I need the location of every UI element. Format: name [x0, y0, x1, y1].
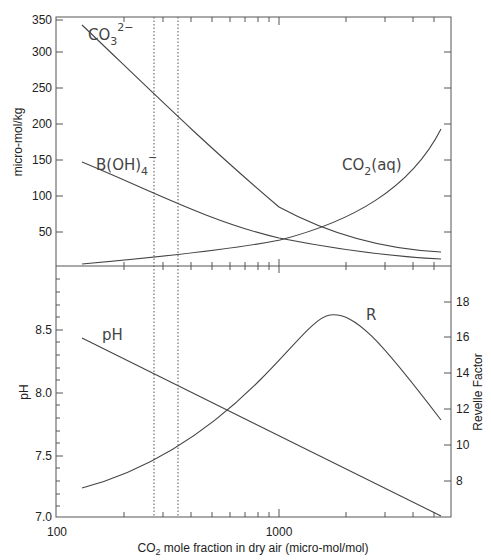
svg-text:7.0: 7.0 [35, 510, 52, 524]
revelle-label: R [366, 306, 376, 324]
plot-frame [56, 17, 451, 517]
svg-text:14: 14 [456, 366, 470, 380]
lower-y-tick-labels: 8.5 8.0 7.5 7.0 [35, 323, 52, 524]
svg-text:250: 250 [32, 81, 52, 95]
svg-text:350: 350 [32, 13, 52, 27]
svg-text:18: 18 [456, 295, 470, 309]
x-ticks [124, 17, 434, 517]
revelle-curve [82, 315, 441, 488]
svg-text:100: 100 [47, 525, 67, 539]
lower-y-ticks [56, 279, 63, 506]
svg-text:1000: 1000 [266, 525, 293, 539]
svg-text:16: 16 [456, 330, 470, 344]
revelle-chart: 350 300 250 200 150 100 50 micro-mol/kg … [0, 0, 491, 560]
x-tick-labels: 100 1000 [47, 525, 293, 539]
svg-text:100: 100 [32, 189, 52, 203]
right-y-tick-labels: 18 16 14 12 10 8 [456, 295, 470, 488]
svg-text:10: 10 [456, 438, 470, 452]
upper-y-tick-labels: 350 300 250 200 150 100 50 [32, 13, 52, 239]
co3-label: CO32− [88, 21, 134, 48]
svg-text:300: 300 [32, 45, 52, 59]
svg-text:50: 50 [39, 225, 53, 239]
svg-text:7.5: 7.5 [35, 449, 52, 463]
x-axis-title: CO2 mole fraction in dry air (micro-mol/… [137, 541, 368, 557]
svg-text:8: 8 [456, 474, 463, 488]
svg-text:150: 150 [32, 153, 52, 167]
co3-curve [82, 25, 441, 252]
co2aq-label: CO2(aq) [342, 156, 402, 178]
boh4-curve [82, 162, 441, 259]
co2aq-curve [82, 129, 441, 264]
ph-axis-title: pH [17, 384, 31, 399]
upper-y-ticks [56, 20, 451, 232]
revelle-axis-title: Revelle Factor [471, 353, 485, 430]
svg-text:200: 200 [32, 117, 52, 131]
svg-text:12: 12 [456, 402, 470, 416]
svg-text:8.0: 8.0 [35, 386, 52, 400]
ph-curve [82, 338, 441, 516]
right-y-ticks [444, 302, 451, 481]
ph-label: pH [102, 326, 123, 344]
boh4-label: B(OH)4− [96, 151, 157, 178]
svg-text:8.5: 8.5 [35, 323, 52, 337]
upper-y-axis-title: micro-mol/kg [11, 108, 25, 177]
